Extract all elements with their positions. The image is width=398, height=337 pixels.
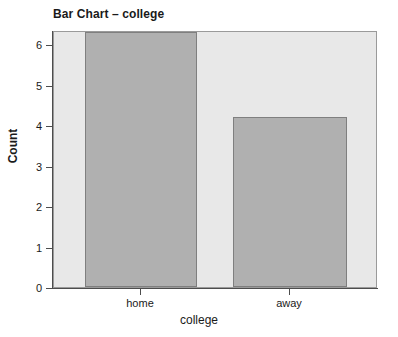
- x-tick-label-away: away: [244, 297, 334, 310]
- y-tick-label-1: 1: [20, 243, 42, 254]
- x-tick-label-home: home: [95, 297, 185, 310]
- y-tick-mark-4: [46, 126, 52, 127]
- y-tick-mark-0: [46, 288, 52, 289]
- plot-panel: [53, 31, 377, 288]
- y-tick-mark-2: [46, 207, 52, 208]
- chart-title: Bar Chart – college: [53, 7, 164, 21]
- y-axis-title: Count: [6, 116, 20, 176]
- y-axis-line: [52, 31, 53, 289]
- y-tick-label-2: 2: [20, 202, 42, 213]
- bar-away: [233, 117, 347, 287]
- x-tick-mark-away: [289, 289, 290, 295]
- x-axis-line: [53, 288, 378, 289]
- bar-chart: Bar Chart – college 0 1 2 3 4 5 6 Count …: [0, 0, 398, 337]
- x-axis-title: college: [0, 313, 398, 327]
- y-tick-mark-6: [46, 45, 52, 46]
- y-tick-label-0: 0: [20, 283, 42, 294]
- y-tick-label-6: 6: [20, 40, 42, 51]
- y-tick-label-4: 4: [20, 121, 42, 132]
- x-tick-mark-home: [140, 289, 141, 295]
- bar-home: [85, 32, 197, 287]
- y-tick-mark-1: [46, 248, 52, 249]
- y-tick-mark-5: [46, 86, 52, 87]
- y-tick-label-3: 3: [20, 162, 42, 173]
- y-tick-label-5: 5: [20, 81, 42, 92]
- y-tick-mark-3: [46, 167, 52, 168]
